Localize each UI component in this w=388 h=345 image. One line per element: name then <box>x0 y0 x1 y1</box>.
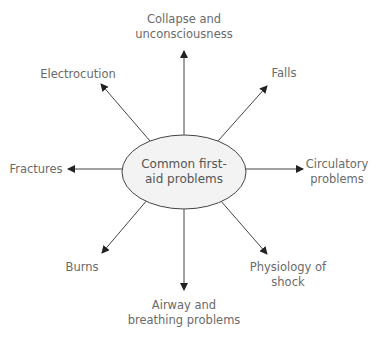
node-label-line: Fractures <box>9 162 62 177</box>
node-electrocution: Electrocution <box>40 67 116 82</box>
mind-map-diagram: Common first- aid problems Collapse and … <box>0 0 388 345</box>
arrow-shock <box>220 200 267 254</box>
node-label-line: unconsciousness <box>135 27 232 42</box>
node-label-line: Collapse and <box>135 12 232 27</box>
node-label-line: Physiology of <box>250 260 326 275</box>
center-label: Common first- aid problems <box>141 157 227 187</box>
node-label-line: Airway and <box>128 298 241 313</box>
node-collapse: Collapse and unconsciousness <box>135 12 232 42</box>
center-label-line: Common first- <box>141 157 227 172</box>
node-label-line: breathing problems <box>128 313 241 328</box>
node-label-line: Circulatory <box>306 157 369 172</box>
node-fractures: Fractures <box>9 162 62 177</box>
node-burns: Burns <box>66 260 99 275</box>
arrow-electrocution <box>101 84 150 141</box>
node-falls: Falls <box>272 66 297 81</box>
node-airway: Airway and breathing problems <box>128 298 241 328</box>
node-shock: Physiology of shock <box>250 260 326 290</box>
center-label-line: aid problems <box>141 172 227 187</box>
node-circulatory: Circulatory problems <box>306 157 369 187</box>
node-label-line: problems <box>306 172 369 187</box>
arrow-falls <box>218 86 267 141</box>
node-label-line: Falls <box>272 66 297 81</box>
node-label-line: shock <box>250 275 326 290</box>
node-label-line: Electrocution <box>40 67 116 82</box>
node-label-line: Burns <box>66 260 99 275</box>
arrow-burns <box>102 199 148 253</box>
